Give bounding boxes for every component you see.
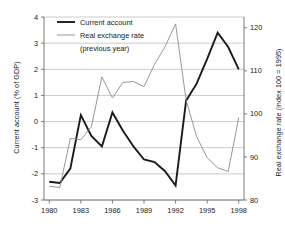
y-tick-label-right: 120 <box>250 23 262 32</box>
y-tick-label-right: 80 <box>250 196 258 205</box>
y-axis-left-ticks: -3-2-101234 <box>31 13 44 205</box>
y-tick-label-right: 100 <box>250 109 262 118</box>
x-tick-label: 1986 <box>104 206 120 215</box>
gridlines <box>44 17 244 200</box>
y-tick-label-left: 3 <box>34 39 38 48</box>
y-tick-label-left: -1 <box>31 143 38 152</box>
y-tick-label-left: 1 <box>34 91 38 100</box>
y-axis-right-ticks: 8090100110120 <box>244 23 262 204</box>
x-axis-ticks: 1980198319861989199219951998 <box>41 200 247 215</box>
x-tick-label: 1995 <box>199 206 215 215</box>
y-tick-label-left: 0 <box>34 117 38 126</box>
legend-label: Current account <box>80 18 133 27</box>
legend-label: Real exchange rate <box>80 31 144 40</box>
y-tick-label-left: 2 <box>34 65 38 74</box>
y-tick-label-left: -3 <box>31 196 38 205</box>
series-line <box>49 24 238 188</box>
legend-label: (previous year) <box>80 44 129 53</box>
chart-figure: Current account (% of GDP) Real exchange… <box>0 0 285 230</box>
chart-legend: Current accountReal exchange rate(previo… <box>57 18 144 53</box>
y-tick-label-right: 110 <box>250 66 262 75</box>
x-tick-label: 1980 <box>41 206 57 215</box>
x-tick-label: 1989 <box>136 206 152 215</box>
axis-lines <box>44 17 244 200</box>
x-tick-label: 1998 <box>231 206 247 215</box>
y-tick-label-left: 4 <box>34 13 38 22</box>
x-tick-label: 1983 <box>73 206 89 215</box>
y-tick-label-left: -2 <box>31 169 38 178</box>
x-tick-label: 1992 <box>167 206 183 215</box>
plot-area: -3-2-101234 8090100110120 19801983198619… <box>0 0 285 230</box>
series-line <box>49 33 238 186</box>
data-series <box>49 24 238 188</box>
y-tick-label-right: 90 <box>250 153 258 162</box>
